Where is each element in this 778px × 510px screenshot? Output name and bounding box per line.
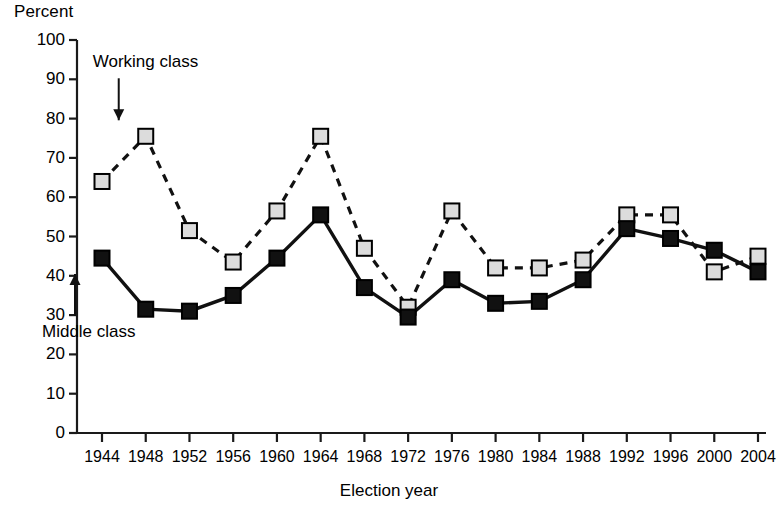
data-point-marker xyxy=(488,296,503,311)
x-axis-title: Election year xyxy=(0,481,778,501)
data-point-marker xyxy=(663,231,678,246)
chart-container: Percent 1009080706050403020100 194419481… xyxy=(0,0,778,510)
y-axis-tick-label: 50 xyxy=(19,228,65,245)
data-point-marker xyxy=(357,280,372,295)
data-point-marker xyxy=(707,264,722,279)
data-point-marker xyxy=(226,288,241,303)
y-axis-tick-label: 10 xyxy=(19,385,65,402)
data-point-marker xyxy=(444,272,459,287)
y-axis-tick-label: 70 xyxy=(19,149,65,166)
series-line-middle-class xyxy=(102,215,758,317)
data-point-marker xyxy=(182,304,197,319)
data-point-marker xyxy=(619,207,634,222)
data-point-marker xyxy=(532,260,547,275)
data-point-marker xyxy=(401,310,416,325)
data-point-marker xyxy=(663,207,678,222)
data-point-marker xyxy=(576,272,591,287)
data-point-marker xyxy=(532,294,547,309)
data-point-marker xyxy=(313,207,328,222)
y-axis-tick-label: 30 xyxy=(19,306,65,323)
plot-area xyxy=(0,0,778,510)
data-point-marker xyxy=(269,203,284,218)
y-axis-tick-label: 80 xyxy=(19,110,65,127)
data-point-marker xyxy=(95,251,110,266)
data-point-marker xyxy=(138,302,153,317)
y-axis-tick-label: 90 xyxy=(19,70,65,87)
annotation-label: Working class xyxy=(93,52,199,72)
y-axis-tick-label: 40 xyxy=(19,267,65,284)
data-point-marker xyxy=(444,203,459,218)
y-axis-tick-label: 0 xyxy=(19,424,65,441)
data-point-marker xyxy=(751,249,766,264)
annotation-label: Middle class xyxy=(42,322,136,342)
data-point-marker xyxy=(357,241,372,256)
data-point-marker xyxy=(269,251,284,266)
y-axis-tick-label: 100 xyxy=(19,31,65,48)
data-point-marker xyxy=(576,253,591,268)
data-point-marker xyxy=(138,129,153,144)
data-point-marker xyxy=(619,221,634,236)
data-point-marker xyxy=(182,223,197,238)
y-axis-tick-label: 60 xyxy=(19,188,65,205)
y-axis-tick-label: 20 xyxy=(19,345,65,362)
data-point-marker xyxy=(707,243,722,258)
data-point-marker xyxy=(313,129,328,144)
x-axis-tick-label: 2004 xyxy=(728,449,778,465)
series-line-working-class xyxy=(102,136,758,307)
data-point-marker xyxy=(751,264,766,279)
data-point-marker xyxy=(488,260,503,275)
annotation-arrow-head xyxy=(113,109,124,120)
data-point-marker xyxy=(226,255,241,270)
data-point-marker xyxy=(95,174,110,189)
